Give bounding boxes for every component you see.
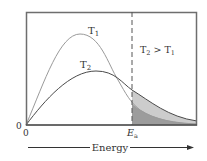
y-zero-label: 0: [16, 121, 22, 131]
t1-curve: [26, 34, 197, 125]
x-axis-label: Energy: [92, 142, 129, 153]
ea-label: Ea: [126, 127, 138, 140]
x-zero-label: 0: [23, 128, 29, 138]
energy-distribution-diagram: T1 T2 T2 > T1 0 0 Ea Energy: [0, 0, 207, 161]
arrowhead-icon: [187, 145, 194, 150]
t2-label: T2: [80, 59, 91, 72]
t1-label: T1: [88, 25, 99, 38]
temperature-annotation: T2 > T1: [140, 44, 175, 57]
